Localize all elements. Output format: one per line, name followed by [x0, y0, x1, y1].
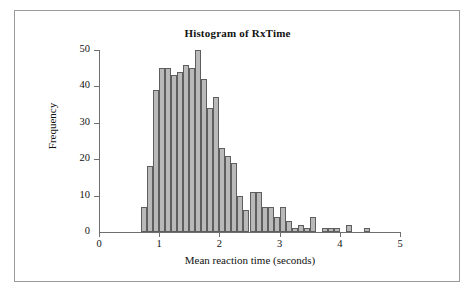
x-axis-label: Mean reaction time (seconds): [99, 254, 401, 266]
y-tick-mark: [94, 123, 99, 124]
y-axis-line: [99, 50, 100, 233]
y-axis-label: Frequency: [46, 66, 58, 186]
x-tick-label: 5: [388, 238, 412, 249]
x-tick-mark: [159, 232, 160, 237]
x-tick-label: 1: [147, 238, 171, 249]
x-tick-label: 4: [328, 238, 352, 249]
x-tick-label: 3: [268, 238, 292, 249]
histogram-bar: [364, 228, 370, 232]
x-tick-label: 2: [207, 238, 231, 249]
x-tick-label: 0: [87, 238, 111, 249]
y-tick-label: 10: [64, 189, 90, 200]
y-tick-label: 20: [64, 152, 90, 163]
y-tick-mark: [94, 50, 99, 51]
y-tick-label: 30: [64, 116, 90, 127]
x-tick-mark: [99, 232, 100, 237]
y-tick-label: 0: [64, 225, 90, 236]
y-tick-mark: [94, 86, 99, 87]
x-tick-mark: [400, 232, 401, 237]
x-tick-mark: [340, 232, 341, 237]
x-axis-line: [99, 232, 401, 233]
histogram-bar: [310, 217, 316, 232]
histogram-bar: [346, 225, 352, 232]
y-tick-mark: [94, 159, 99, 160]
y-tick-label: 50: [64, 43, 90, 54]
x-tick-mark: [219, 232, 220, 237]
y-tick-label: 40: [64, 79, 90, 90]
x-tick-mark: [280, 232, 281, 237]
chart-page: Histogram of RxTime 012345 01020304050 M…: [0, 0, 475, 294]
plot-area: 012345 01020304050 Mean reaction time (s…: [0, 0, 475, 294]
y-tick-mark: [94, 196, 99, 197]
